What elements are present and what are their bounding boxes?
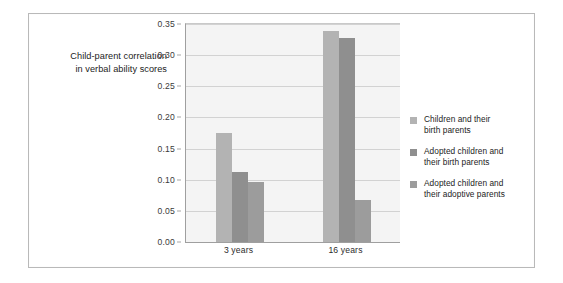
y-axis-tick-label: 0.25 (157, 81, 175, 91)
y-axis-tick-mark (177, 210, 181, 211)
legend-swatch-icon (410, 181, 417, 188)
plot-area (185, 23, 400, 243)
x-axis-labels: 3 years16 years (185, 245, 401, 261)
y-axis-tick-label: 0.00 (157, 237, 175, 247)
bars-layer (186, 24, 400, 242)
legend-entry: Adopted children andtheir birth parents (410, 146, 530, 167)
legend-label-line-2: their birth parents (424, 157, 503, 168)
bar (323, 31, 339, 242)
x-axis-tick-label: 16 years (328, 245, 362, 255)
legend-label-line-1: Adopted children and (424, 178, 505, 189)
y-axis-tick-label: 0.30 (157, 50, 175, 60)
figure-frame: Child-parent correlation in verbal abili… (28, 13, 535, 268)
y-axis-tick-mark (177, 242, 181, 243)
y-axis: 0.000.050.100.150.200.250.300.35 (129, 23, 181, 242)
y-axis-tick-mark (177, 24, 181, 25)
y-axis-tick-label: 0.15 (157, 144, 175, 154)
legend-label-line-2: their adoptive parents (424, 189, 505, 200)
y-axis-tick-mark (177, 148, 181, 149)
x-axis-tick-label: 3 years (224, 245, 253, 255)
y-axis-tick-mark (177, 117, 181, 118)
y-axis-tick-mark (177, 86, 181, 87)
bar (339, 38, 355, 242)
y-axis-tick-label: 0.35 (157, 19, 175, 29)
legend-entry: Adopted children andtheir adoptive paren… (410, 178, 530, 199)
legend-label-line-1: Children and their (424, 114, 490, 125)
legend-label-line-2: birth parents (424, 125, 490, 136)
legend-swatch-icon (410, 117, 417, 124)
y-axis-tick-label: 0.05 (157, 206, 175, 216)
legend-label: Adopted children andtheir adoptive paren… (424, 178, 505, 199)
y-axis-tick-mark (177, 55, 181, 56)
bar (216, 133, 232, 242)
legend-swatch-icon (410, 149, 417, 156)
legend-label-line-1: Adopted children and (424, 146, 503, 157)
legend-label: Children and theirbirth parents (424, 114, 490, 135)
legend-entry: Children and theirbirth parents (410, 114, 530, 135)
y-axis-tick-label: 0.10 (157, 175, 175, 185)
bar (355, 200, 371, 242)
y-axis-tick-mark (177, 179, 181, 180)
legend-label: Adopted children andtheir birth parents (424, 146, 503, 167)
bar (248, 182, 264, 242)
legend: Children and theirbirth parentsAdopted c… (410, 114, 530, 210)
bar (232, 172, 248, 242)
y-axis-tick-label: 0.20 (157, 112, 175, 122)
